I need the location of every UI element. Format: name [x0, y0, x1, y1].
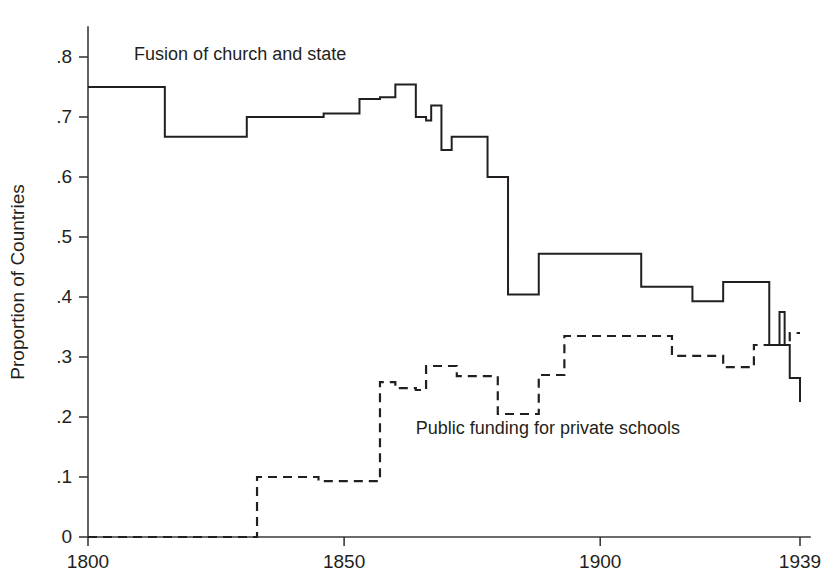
y-tick-label: .7 [56, 106, 72, 127]
y-tick-label: 0 [61, 526, 72, 547]
y-tick-label: .5 [56, 226, 72, 247]
chart-container: 0.1.2.3.4.5.6.7.8 1800185019001939 Propo… [0, 0, 835, 573]
y-tick-label: .4 [56, 286, 72, 307]
x-axis-ticks: 1800185019001939 [67, 537, 821, 572]
y-axis-ticks: 0.1.2.3.4.5.6.7.8 [56, 46, 88, 547]
y-tick-label: .1 [56, 466, 72, 487]
series-label-fusion-of-church-and-state: Fusion of church and state [134, 44, 346, 64]
y-tick-label: .3 [56, 346, 72, 367]
x-tick-label: 1800 [67, 551, 109, 572]
series-line-fusion-of-church-and-state [88, 85, 800, 402]
series-label-public-funding-for-private-schools: Public funding for private schools [416, 418, 680, 438]
y-tick-label: .2 [56, 406, 72, 427]
y-tick-label: .6 [56, 166, 72, 187]
x-tick-label: 1939 [779, 551, 821, 572]
y-axis-title: Proportion of Countries [7, 184, 28, 379]
x-tick-label: 1850 [323, 551, 365, 572]
y-tick-label: .8 [56, 46, 72, 67]
x-tick-label: 1900 [579, 551, 621, 572]
line-chart: 0.1.2.3.4.5.6.7.8 1800185019001939 Propo… [0, 0, 835, 573]
